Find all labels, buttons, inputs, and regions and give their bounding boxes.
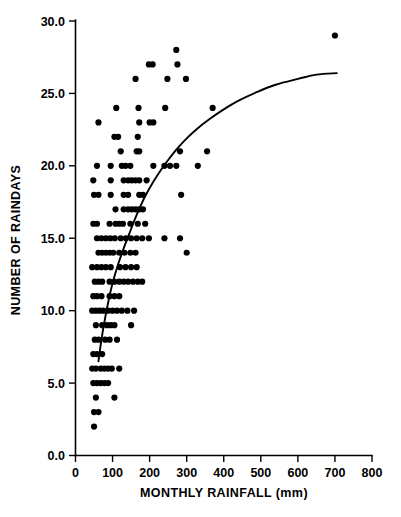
- data-point: [135, 221, 141, 227]
- data-point: [132, 76, 138, 82]
- data-point: [210, 105, 216, 111]
- data-point: [93, 322, 99, 328]
- data-point: [132, 250, 138, 256]
- data-point: [108, 163, 114, 169]
- data-point: [93, 394, 99, 400]
- x-tick-label: 0: [72, 466, 79, 480]
- data-point: [116, 366, 122, 372]
- data-point: [95, 119, 101, 125]
- data-point: [108, 192, 114, 198]
- data-point: [98, 293, 104, 299]
- data-point: [94, 221, 100, 227]
- x-tick-label: 200: [139, 466, 160, 480]
- x-tick-label: 700: [325, 466, 346, 480]
- data-point: [177, 235, 183, 241]
- data-point: [139, 235, 145, 241]
- data-point: [125, 192, 131, 198]
- data-point: [111, 394, 117, 400]
- data-point: [144, 177, 150, 183]
- data-point: [131, 308, 137, 314]
- data-point: [113, 105, 119, 111]
- y-tick-label: 25.0: [41, 87, 65, 101]
- data-point: [110, 250, 116, 256]
- data-point: [114, 337, 120, 343]
- data-point: [108, 264, 114, 270]
- y-tick-label: 10.0: [41, 304, 65, 318]
- x-tick-label: 500: [250, 466, 271, 480]
- data-point: [173, 163, 179, 169]
- data-point: [161, 235, 167, 241]
- y-tick-label: 15.0: [41, 232, 65, 246]
- data-point: [112, 235, 118, 241]
- data-point: [111, 322, 117, 328]
- data-point: [116, 293, 122, 299]
- fit-curve-line: [98, 73, 336, 361]
- data-point: [173, 47, 179, 53]
- data-point: [195, 163, 201, 169]
- data-point: [136, 177, 142, 183]
- data-point: [115, 134, 121, 140]
- x-tick-label: 300: [176, 466, 197, 480]
- data-point: [95, 409, 101, 415]
- x-axis-title: MONTHLY RAINFALL (mm): [140, 486, 308, 500]
- data-point: [136, 148, 142, 154]
- data-point: [112, 206, 118, 212]
- data-point: [162, 105, 168, 111]
- chart-canvas: 0.05.010.015.020.025.030.0 0100200300400…: [0, 0, 401, 517]
- scatter-points: [89, 32, 338, 429]
- data-point: [127, 163, 133, 169]
- data-point: [122, 264, 128, 270]
- data-point: [128, 264, 134, 270]
- data-point: [94, 163, 100, 169]
- data-point: [91, 423, 97, 429]
- data-point: [136, 119, 142, 125]
- data-point: [167, 163, 173, 169]
- data-point: [128, 322, 134, 328]
- data-point: [164, 76, 170, 82]
- data-point: [109, 366, 115, 372]
- data-point: [120, 221, 126, 227]
- y-tick-label: 5.0: [48, 377, 65, 391]
- data-point: [146, 235, 152, 241]
- x-tick-label: 600: [287, 466, 308, 480]
- y-axis-ticks: 0.05.010.015.020.025.030.0: [41, 15, 76, 464]
- data-point: [149, 61, 155, 67]
- data-point: [99, 279, 105, 285]
- data-point: [204, 148, 210, 154]
- data-point: [135, 134, 141, 140]
- y-tick-label: 0.0: [48, 449, 65, 463]
- data-point: [178, 192, 184, 198]
- y-tick-label: 20.0: [41, 159, 65, 173]
- data-point: [95, 192, 101, 198]
- data-point: [150, 163, 156, 169]
- data-point: [105, 380, 111, 386]
- y-tick-label: 30.0: [41, 15, 65, 29]
- x-tick-label: 400: [213, 466, 234, 480]
- x-tick-label: 800: [362, 466, 383, 480]
- data-point: [183, 76, 189, 82]
- x-tick-label: 100: [102, 466, 123, 480]
- data-point: [108, 177, 114, 183]
- data-point: [90, 177, 96, 183]
- data-point: [135, 105, 141, 111]
- data-point: [139, 279, 145, 285]
- rainfall-raindays-scatter-figure: 0.05.010.015.020.025.030.0 0100200300400…: [0, 0, 401, 517]
- data-point: [332, 32, 338, 38]
- data-point: [124, 308, 130, 314]
- data-point: [134, 235, 140, 241]
- data-point: [106, 221, 112, 227]
- data-point: [184, 250, 190, 256]
- data-point: [142, 221, 148, 227]
- data-point: [118, 148, 124, 154]
- data-point: [134, 264, 140, 270]
- data-point: [150, 119, 156, 125]
- y-axis-title: NUMBER OF RAINDAYS: [9, 165, 23, 316]
- data-point: [106, 337, 112, 343]
- data-point: [174, 61, 180, 67]
- x-axis-ticks: 0100200300400500600700800: [72, 456, 382, 481]
- data-point: [119, 308, 125, 314]
